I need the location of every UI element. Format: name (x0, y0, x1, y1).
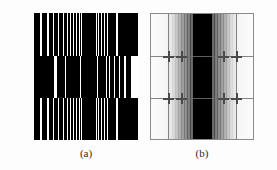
chirp-end-block (118, 98, 138, 140)
chirp-bar (64, 98, 67, 140)
chirp-bar (98, 56, 100, 98)
spectrum-replica-peak-cross (176, 51, 187, 62)
chirp-bar (112, 98, 116, 140)
chirp-bar (71, 13, 73, 56)
chirp-bar (100, 56, 102, 98)
chirp-bar (105, 13, 108, 56)
chirp-end-block (118, 13, 138, 56)
chirp-bar (42, 13, 47, 56)
chirp-bar (59, 13, 63, 56)
chirp-bar (54, 98, 58, 140)
spectrum-column (252, 14, 253, 139)
chirp-bar (74, 98, 76, 140)
chirp-bar (59, 98, 63, 140)
chirp-bar (34, 13, 40, 56)
chirp-bar (110, 56, 113, 98)
chirp-bar (126, 56, 132, 98)
chirp-bar (103, 56, 105, 98)
spectrum-replica-peak-cross (231, 93, 242, 104)
spectrum-grid-line-vertical (168, 14, 169, 139)
chirp-bar (42, 98, 47, 140)
chirp-bar (57, 56, 61, 98)
panel-a-chirp-target (34, 13, 138, 140)
chirp-bar (115, 56, 119, 98)
chirp-band-top (34, 13, 138, 56)
chirp-bar (107, 56, 110, 98)
spectrum-replica-peak-cross (218, 51, 229, 62)
chirp-bar (99, 13, 101, 56)
chirp-bar (66, 56, 69, 98)
panel-b-fourier-spectrum (150, 13, 254, 140)
chirp-bar (99, 98, 101, 140)
spectrum-replica-peak-cross (163, 51, 174, 62)
spectrum-replica-peak-cross (176, 93, 187, 104)
chirp-bar (112, 13, 116, 56)
chirp-bar (80, 98, 82, 140)
figure-root: (a) (b) (0, 0, 277, 170)
chirp-band-middle (34, 56, 138, 98)
chirp-bar (61, 56, 65, 98)
chirp-bar (77, 98, 79, 140)
spectrum-replica-peak-cross (218, 93, 229, 104)
chirp-bar (64, 13, 67, 56)
chirp-bar (34, 98, 40, 140)
spectrum-replica-peak-cross (231, 51, 242, 62)
chirp-bar (71, 98, 73, 140)
chirp-bar (72, 56, 74, 98)
chirp-bar (78, 56, 80, 98)
spectrum-replica-peak-cross (163, 93, 174, 104)
chirp-bar (54, 13, 58, 56)
chirp-band-bottom (34, 98, 138, 140)
chirp-bar (49, 13, 54, 56)
chirp-bar (105, 98, 108, 140)
chirp-bar (75, 56, 77, 98)
caption-panel-b: (b) (150, 146, 254, 160)
chirp-bar (80, 13, 82, 56)
caption-panel-a: (a) (34, 146, 138, 160)
chirp-bar (77, 13, 79, 56)
chirp-bar (74, 13, 76, 56)
chirp-bar (120, 56, 125, 98)
spectrum-canvas (151, 14, 253, 139)
chirp-bar (49, 98, 54, 140)
chirp-end-block (34, 56, 54, 98)
spectrum-grid-line-vertical (236, 14, 237, 139)
